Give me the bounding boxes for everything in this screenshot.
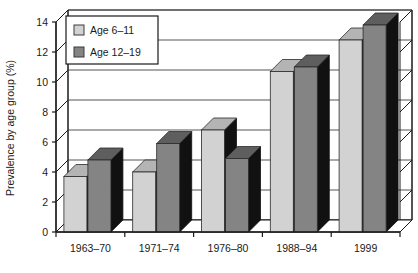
bar-age-12-19-3 <box>294 55 329 232</box>
chart-legend: Age 6–11Age 12–19 <box>66 16 158 64</box>
legend-label-0: Age 6–11 <box>90 24 134 36</box>
bar-age-12-19-1 <box>157 132 192 233</box>
y-tick-label-14: 14 <box>36 16 48 28</box>
chart-canvas: Prevalence by age group (%) 14 12 10 8 6… <box>0 0 418 273</box>
y-tick-label-10: 10 <box>36 76 48 88</box>
bar-chart: Prevalence by age group (%) 14 12 10 8 6… <box>0 0 418 273</box>
x-axis-tick-labels: 1963–701971–741976–801988–941999 <box>56 232 400 254</box>
y-tick-label-0: 0 <box>42 226 48 238</box>
x-tick-label-0: 1963–70 <box>70 242 111 254</box>
legend-label-1: Age 12–19 <box>90 46 141 58</box>
y-tick-label-12: 12 <box>36 46 48 58</box>
bar-age-12-19-4 <box>363 13 398 232</box>
x-tick-label-4: 1999 <box>354 242 378 254</box>
y-tick-label-2: 2 <box>42 196 48 208</box>
y-axis-title: Prevalence by age group (%) <box>4 60 16 196</box>
y-tick-label-4: 4 <box>42 166 48 178</box>
legend-swatch-age-12-19 <box>74 47 84 57</box>
y-axis-tick-labels: 14 12 10 8 6 4 2 0 <box>36 16 48 238</box>
x-tick-label-1: 1971–74 <box>139 242 180 254</box>
bar-age-12-19-2 <box>226 147 261 233</box>
legend-swatch-age-6-11 <box>74 25 84 35</box>
x-tick-label-2: 1976–80 <box>208 242 249 254</box>
y-tick-label-6: 6 <box>42 136 48 148</box>
x-tick-label-3: 1988–94 <box>276 242 317 254</box>
y-tick-label-8: 8 <box>42 106 48 118</box>
bar-age-12-19-0 <box>88 148 123 232</box>
